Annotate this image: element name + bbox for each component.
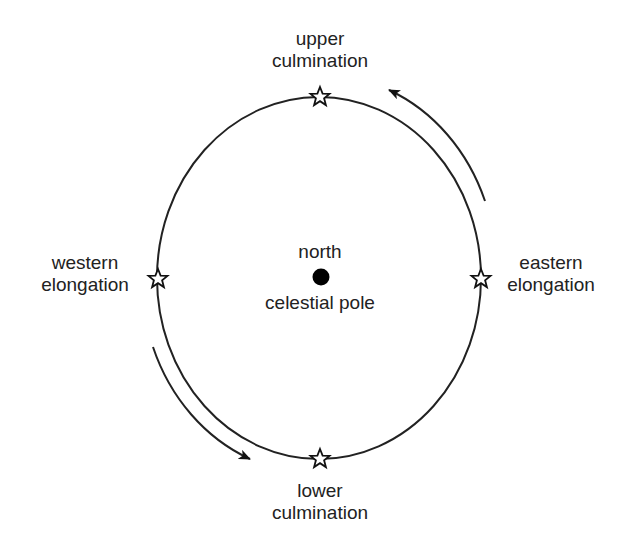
label-upper-line1: upper bbox=[250, 28, 390, 50]
label-western-line2: elongation bbox=[20, 274, 150, 296]
label-western-line1: western bbox=[20, 252, 150, 274]
label-western-elongation: western elongation bbox=[20, 252, 150, 296]
star-icon-lower bbox=[311, 449, 330, 467]
label-upper-culmination: upper culmination bbox=[250, 28, 390, 72]
label-upper-line2: culmination bbox=[250, 50, 390, 72]
label-lower-line1: lower bbox=[250, 480, 390, 502]
arrow-east-to-upper bbox=[389, 90, 485, 201]
star-icon-upper bbox=[311, 87, 330, 105]
label-lower-line2: culmination bbox=[250, 502, 390, 524]
north-celestial-pole-dot bbox=[313, 269, 330, 286]
label-lower-culmination: lower culmination bbox=[250, 480, 390, 524]
label-pole-line1: north bbox=[260, 241, 380, 263]
label-eastern-line1: eastern bbox=[486, 252, 616, 274]
label-eastern-elongation: eastern elongation bbox=[486, 252, 616, 296]
label-north-celestial-pole-bottom: celestial pole bbox=[240, 292, 400, 314]
label-pole-line2: celestial pole bbox=[240, 292, 400, 314]
label-north-celestial-pole-top: north bbox=[260, 241, 380, 263]
label-eastern-line2: elongation bbox=[486, 274, 616, 296]
